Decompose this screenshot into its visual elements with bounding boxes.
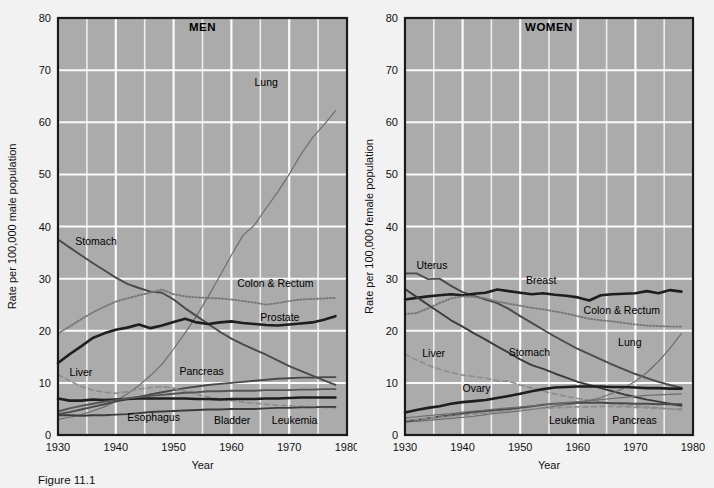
x-tick-label: 1930 xyxy=(46,441,70,453)
y-tick-label: 70 xyxy=(39,64,51,76)
series-annotation: Colon & Rectum xyxy=(584,304,661,316)
series-annotation: Liver xyxy=(422,347,445,359)
series-annotation: Stomach xyxy=(509,346,551,358)
y-tick-label: 20 xyxy=(39,325,51,337)
figure-container: 0102030405060708019301940195019601970198… xyxy=(0,0,714,488)
y-tick-label: 0 xyxy=(45,429,51,441)
y-tick-label: 30 xyxy=(386,273,398,285)
y-tick-label: 60 xyxy=(39,116,51,128)
y-tick-label: 80 xyxy=(386,12,398,24)
series-annotation: Uterus xyxy=(417,259,448,271)
x-tick-label: 1980 xyxy=(681,441,705,453)
series-annotation: Prostate xyxy=(260,311,299,323)
series-annotation: Esophagus xyxy=(127,411,180,423)
y-tick-label: 50 xyxy=(386,168,398,180)
series-annotation: Colon & Rectum xyxy=(237,277,314,289)
x-tick-label: 1960 xyxy=(566,441,590,453)
y-tick-label: 10 xyxy=(386,377,398,389)
y-axis-label: Rate per 100,000 male population xyxy=(6,144,18,310)
y-tick-label: 60 xyxy=(386,116,398,128)
chart-men: 0102030405060708019301940195019601970198… xyxy=(0,0,357,470)
series-annotation: Leukemia xyxy=(272,414,318,426)
series-annotation: Leukemia xyxy=(549,414,595,426)
panel-title: WOMEN xyxy=(525,21,573,33)
x-axis-label: Year xyxy=(538,459,561,470)
y-tick-label: 0 xyxy=(392,429,398,441)
x-axis-label: Year xyxy=(191,459,214,470)
y-tick-label: 20 xyxy=(386,325,398,337)
series-annotation: Stomach xyxy=(75,235,117,247)
y-tick-label: 30 xyxy=(39,273,51,285)
x-tick-label: 1980 xyxy=(335,441,357,453)
x-tick-label: 1950 xyxy=(508,441,532,453)
x-tick-label: 1970 xyxy=(623,441,647,453)
x-tick-label: 1970 xyxy=(277,441,301,453)
series-annotation: Bladder xyxy=(214,414,251,426)
series-annotation: Pancreas xyxy=(179,365,223,377)
x-tick-label: 1940 xyxy=(104,441,128,453)
figure-caption: Figure 11.1 xyxy=(38,474,95,486)
y-tick-label: 70 xyxy=(386,64,398,76)
x-tick-label: 1950 xyxy=(161,441,185,453)
chart-women: 0102030405060708019301940195019601970198… xyxy=(357,0,714,470)
y-axis-label: Rate per 100,000 female population xyxy=(363,139,375,314)
series-annotation: Lung xyxy=(618,336,642,348)
x-tick-label: 1960 xyxy=(219,441,243,453)
y-tick-label: 40 xyxy=(39,221,51,233)
y-tick-label: 40 xyxy=(386,221,398,233)
x-tick-label: 1930 xyxy=(393,441,417,453)
panel-men: 0102030405060708019301940195019601970198… xyxy=(0,0,357,488)
x-tick-label: 1940 xyxy=(450,441,474,453)
series-annotation: Pancreas xyxy=(612,414,656,426)
series-annotation: Lung xyxy=(255,76,279,88)
y-tick-label: 10 xyxy=(39,377,51,389)
panel-title: MEN xyxy=(189,21,216,33)
series-annotation: Ovary xyxy=(463,382,492,394)
series-annotation: Breast xyxy=(526,274,556,286)
panel-women: 0102030405060708019301940195019601970198… xyxy=(357,0,714,488)
y-tick-label: 80 xyxy=(39,12,51,24)
series-annotation: Liver xyxy=(70,366,93,378)
y-tick-label: 50 xyxy=(39,168,51,180)
